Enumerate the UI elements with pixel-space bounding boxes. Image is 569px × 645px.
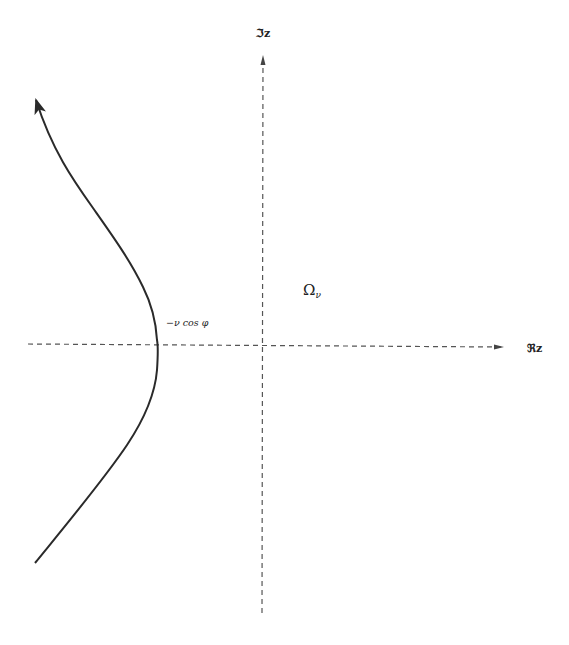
region-omega-label: Ων bbox=[303, 283, 321, 300]
real-axis bbox=[28, 344, 503, 347]
region-symbol: Ω bbox=[303, 281, 315, 299]
contour-curve bbox=[35, 100, 158, 563]
imaginary-axis-label: ℑz bbox=[256, 28, 270, 39]
region-subscript: ν bbox=[315, 290, 320, 300]
imaginary-axis bbox=[262, 56, 263, 613]
vertex-label: −ν cos φ bbox=[166, 318, 208, 328]
contour-diagram bbox=[0, 0, 569, 645]
real-axis-label: ℜz bbox=[527, 343, 542, 354]
